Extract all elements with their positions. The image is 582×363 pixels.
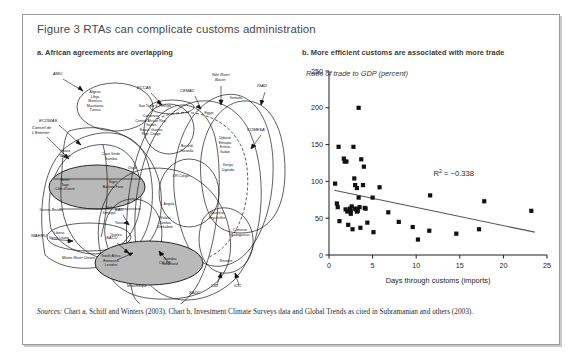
data-point	[371, 230, 375, 234]
diagram-acronym-ecowas: ECOWAS	[39, 118, 57, 123]
data-point	[355, 186, 359, 190]
y-tick-label: 100	[311, 177, 323, 186]
x-tick-label: 0	[327, 261, 331, 270]
x-tick-label: 15	[456, 261, 464, 270]
data-point	[357, 195, 361, 199]
diagram-acronym-cbi: CBI	[211, 283, 219, 288]
country-group-tanzania: Tanzania	[115, 221, 129, 225]
diagram-acronym-waemu: WAEMU	[31, 233, 47, 238]
data-point	[337, 219, 341, 223]
diagram-acronym-igad: IGAD	[257, 83, 267, 88]
y-tick-label: 200	[311, 103, 323, 112]
data-point	[416, 237, 420, 241]
country-group-amu-members: AlgeriaLibyaMoroccoMauritaniaTunisia	[87, 90, 103, 112]
data-point	[428, 193, 432, 197]
african-agreements-diagram: AMUECOWASConseil deL'EntenteECCASCEMACNi…	[29, 59, 297, 304]
diagram-acronym-cemac: CEMAC	[180, 88, 195, 93]
x-tick-label: 10	[412, 261, 420, 270]
country-group-liberia-sierraleone: LiberiaSierra Leone	[49, 231, 69, 240]
scatter-chart: 0501001502002500510152025 R2 = −0.338 Da…	[295, 59, 557, 304]
diagram-acronym-amu: AMU	[52, 71, 62, 76]
country-group-chad: Chad	[128, 166, 136, 170]
diagram-acronym-conseil2: L'Entente	[32, 130, 50, 135]
data-point	[386, 210, 390, 214]
data-point	[357, 106, 361, 110]
figure-container: Figure 3 RTAs can complicate customs adm…	[22, 14, 560, 345]
data-point	[344, 159, 348, 163]
data-point	[333, 182, 337, 186]
diagram-svg: AMUECOWASConseil deL'EntenteECCASCEMACNi…	[29, 59, 297, 304]
panel-b-title: b. More efficient customs are associated…	[302, 48, 504, 57]
y-tick-label: 250	[311, 67, 323, 76]
diagram-acronym-mano: Mano River Union	[62, 255, 95, 260]
chart-axes: 0501001502002500510152025	[311, 67, 551, 270]
r-squared-annotation: R2 = −0.338	[433, 168, 474, 178]
source-note: Sources: Chart a, Schiff and Winters (20…	[37, 307, 545, 318]
data-point	[362, 165, 366, 169]
x-tick-label: 25	[543, 261, 551, 270]
data-point	[364, 207, 368, 211]
data-point	[336, 205, 340, 209]
nile-river-basin-region	[174, 94, 273, 266]
x-axis-label: Days through customs (imports)	[386, 276, 491, 285]
trend-line	[334, 190, 535, 232]
diagram-acronym-eac: EAC	[115, 207, 123, 212]
data-point	[335, 201, 339, 205]
data-point	[454, 232, 458, 236]
country-group-saotome: Sao Tome & Principe	[139, 104, 172, 108]
data-point	[356, 209, 360, 213]
figure-title: Figure 3 RTAs can complicate customs adm…	[37, 23, 316, 35]
country-group-kenya-uganda: KenyaUganda	[222, 163, 234, 172]
data-point	[358, 226, 362, 230]
country-group-mauritius-seychelles: MauritiusSeychelles	[209, 211, 226, 220]
country-group-angola: Angola	[164, 202, 175, 206]
data-point	[361, 183, 365, 187]
country-group-drcongo: DR Congo	[173, 174, 189, 178]
y-tick-label: 150	[311, 140, 323, 149]
x-tick-label: 5	[371, 261, 375, 270]
data-point	[365, 221, 369, 225]
country-group-burundi-rwanda: BurundiRwanda	[181, 144, 194, 153]
country-group-comoros-madagascar: ComorosMadagascar	[230, 228, 250, 237]
country-group-somalia: Somalia	[230, 96, 243, 100]
data-point	[377, 185, 381, 189]
source-text: Chart a, Schiff and Winters (2003). Char…	[62, 307, 473, 316]
diagram-acronym-sadc: SADC	[189, 290, 200, 295]
country-group-namibia-swaziland: NamibiaSwaziland	[162, 257, 178, 266]
data-point	[482, 199, 486, 203]
figure-screenshot: Figure 3 RTAs can complicate customs adm…	[0, 0, 582, 363]
source-label: Sources:	[37, 307, 62, 316]
data-point	[346, 223, 350, 227]
country-group-guinea-bissau: Guinea-Bissau	[40, 208, 63, 212]
y-tick-label: 0	[319, 251, 323, 260]
diagram-acronym-eccas: ECCAS	[137, 85, 151, 90]
country-group-guinea: Guinea	[110, 233, 121, 237]
data-point	[351, 145, 355, 149]
diagram-acronym-comesa: COMESA	[247, 127, 265, 132]
country-group-malawi-group: MalawiZambiaZimbabwe	[157, 216, 173, 229]
country-group-ghana-nigeria: GhanaNigeria	[59, 149, 70, 158]
diagram-acronym-ioc: IOC	[234, 283, 241, 288]
data-point	[397, 220, 401, 224]
data-point	[427, 229, 431, 233]
x-tick-label: 20	[499, 261, 507, 270]
data-point	[371, 195, 375, 199]
data-point	[411, 225, 415, 229]
scatter-svg: 0501001502002500510152025 R2 = −0.338 Da…	[295, 59, 557, 304]
regression-line	[334, 190, 535, 232]
country-group-djibouti-group: DjiboutiEthiopiaEritreaSudan	[219, 136, 232, 154]
diagram-acronym-nile2: Basin	[215, 77, 226, 82]
country-group-egypt: Egypt	[205, 111, 214, 115]
country-group-mozambique: Mozambique	[127, 284, 147, 288]
data-point	[359, 157, 363, 161]
data-point	[529, 209, 533, 213]
y-tick-label: 50	[315, 214, 323, 223]
data-point	[350, 227, 354, 231]
data-point	[477, 227, 481, 231]
data-point	[336, 145, 340, 149]
data-point	[357, 205, 361, 209]
country-group-capeverde-gambia: Cape VerdeGambia	[102, 152, 121, 161]
country-group-reunion: Reunion	[219, 259, 232, 263]
data-point	[352, 176, 356, 180]
data-point	[349, 212, 353, 216]
